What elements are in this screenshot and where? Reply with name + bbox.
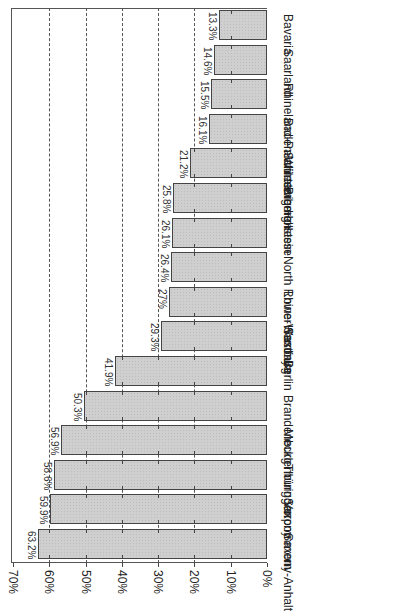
bar-tick	[231, 451, 232, 455]
bar-tick	[231, 529, 232, 533]
value-label: 59.9%	[38, 496, 49, 524]
bar-tick	[122, 520, 123, 524]
bar-tick	[86, 391, 87, 395]
bar-tick	[158, 451, 159, 455]
bar-tick	[122, 382, 123, 386]
bar-tick	[158, 555, 159, 559]
axis-tick-label: 10%	[224, 570, 238, 594]
bar-tick	[158, 460, 159, 464]
bar-tick	[194, 347, 195, 351]
bar-tick	[231, 148, 232, 152]
bar-tick	[194, 252, 195, 256]
bar-tick	[158, 529, 159, 533]
bar-tick	[194, 356, 195, 360]
bar-tick	[122, 460, 123, 464]
value-label: 26.4%	[159, 254, 170, 282]
bar-tick	[49, 555, 50, 559]
bar-tick	[122, 529, 123, 533]
bar-tick	[194, 313, 195, 317]
axis-tick	[49, 563, 50, 567]
category-label: Hesse	[281, 222, 295, 256]
bar	[169, 287, 267, 317]
bar-tick	[86, 451, 87, 455]
bar-tick	[194, 391, 195, 395]
bar-tick	[231, 486, 232, 490]
bar-tick	[86, 417, 87, 421]
bar-tick	[231, 425, 232, 429]
bar-tick	[194, 244, 195, 248]
bar-tick	[231, 79, 232, 83]
bar-tick	[122, 494, 123, 498]
bar	[190, 148, 267, 178]
bar-tick	[194, 417, 195, 421]
bar-tick	[122, 451, 123, 455]
bar-tick	[86, 460, 87, 464]
bar-tick	[158, 494, 159, 498]
bar-tick	[231, 382, 232, 386]
bar-tick	[231, 183, 232, 187]
value-label: 29.3%	[149, 323, 160, 351]
bar-tick	[231, 71, 232, 75]
bar-tick	[122, 425, 123, 429]
bar-tick	[194, 321, 195, 325]
bar	[171, 252, 267, 282]
bar-tick	[122, 417, 123, 421]
bar-tick	[231, 356, 232, 360]
axis-tick-label: 70%	[6, 570, 20, 594]
bar-tick	[86, 529, 87, 533]
bar-tick	[194, 278, 195, 282]
bar	[172, 218, 267, 248]
bar-tick	[122, 391, 123, 395]
bar	[84, 391, 267, 421]
bar-tick	[194, 382, 195, 386]
bar-tick	[231, 278, 232, 282]
value-label: 25.8%	[161, 185, 172, 213]
bar-tick	[231, 174, 232, 178]
bar-tick	[231, 313, 232, 317]
axis-tick	[267, 563, 268, 567]
bar-tick	[86, 494, 87, 498]
axis-tick	[194, 563, 195, 567]
bar	[214, 45, 267, 75]
bar-tick	[231, 252, 232, 256]
bar-tick	[158, 356, 159, 360]
axis-tick-label: 50%	[79, 570, 93, 594]
axis-tick-label: 0%	[260, 570, 274, 587]
bar-tick	[194, 174, 195, 178]
bar-tick	[231, 114, 232, 118]
axis-tick	[158, 563, 159, 567]
bar-tick	[158, 520, 159, 524]
bar-tick	[231, 209, 232, 213]
bar-tick	[231, 36, 232, 40]
bar-tick	[231, 244, 232, 248]
bar-tick	[231, 321, 232, 325]
bar-tick	[194, 494, 195, 498]
value-label: 27%	[157, 289, 168, 309]
value-label: 50.3%	[72, 393, 83, 421]
value-label: 15.5%	[199, 81, 210, 109]
bar-tick	[231, 140, 232, 144]
bar	[209, 114, 267, 144]
bar	[61, 425, 267, 455]
axis-tick	[122, 563, 123, 567]
bar-tick	[122, 555, 123, 559]
bar-tick	[194, 460, 195, 464]
bar	[115, 356, 267, 386]
bar-tick	[86, 555, 87, 559]
bar-tick	[158, 486, 159, 490]
axis-tick-label: 20%	[187, 570, 201, 594]
bar-tick	[158, 425, 159, 429]
bar-tick	[231, 460, 232, 464]
bar	[161, 321, 267, 351]
bar-tick	[86, 486, 87, 490]
bar-tick	[231, 494, 232, 498]
bar-tick	[194, 209, 195, 213]
value-label: 63.2%	[26, 531, 37, 559]
axis-tick-label: 60%	[42, 570, 56, 594]
bar-tick	[86, 520, 87, 524]
bar-tick	[122, 356, 123, 360]
axis-tick	[13, 563, 14, 567]
value-label: 56.9%	[49, 427, 60, 455]
axis-tick	[231, 563, 232, 567]
value-label: 13.3%	[207, 12, 218, 40]
